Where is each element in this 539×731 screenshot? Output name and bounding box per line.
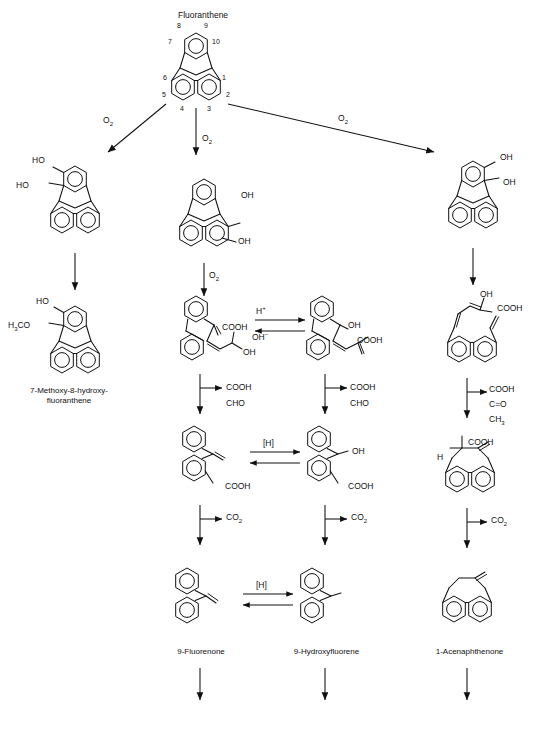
middle-diol-oh-1: OH (241, 190, 254, 201)
middle-right-oh: OH (348, 320, 361, 331)
ring-number-8: 8 (177, 22, 181, 29)
left-diol-structure (49, 166, 99, 233)
middle-right-side-cooh: COOH (350, 382, 376, 393)
middle-diol-oh-2: OH (238, 236, 251, 247)
parent-compound-title: Fluoranthene (178, 10, 228, 20)
equilibrium-proton-label: H+ (256, 305, 266, 316)
left-product-name-line2: fluoranthene (47, 396, 91, 405)
oxygen-label-right: O2 (338, 113, 348, 126)
middle-right-acid-oh: OH (352, 446, 365, 457)
ring-number-1: 1 (222, 74, 226, 81)
ring-number-5: 5 (162, 91, 166, 98)
co2-label-right: CO2 (491, 515, 507, 528)
right-acid-h: H (437, 452, 443, 463)
acenaphthenone-name: 1-Acenaphthenone (417, 647, 522, 657)
middle-ketoacid-cooh: COOH (222, 322, 248, 333)
ring-number-2: 2 (226, 91, 230, 98)
middle-right-cooh: COOH (357, 335, 383, 346)
ring-number-6: 6 (163, 74, 167, 81)
fluorenone-structure (176, 568, 218, 623)
hydride-label-2: [H] (256, 580, 267, 591)
left-product-methoxy: H3CO (8, 320, 30, 333)
right-diol-oh-1: OH (500, 152, 513, 163)
left-product-name: 7-Methoxy-8-hydroxy- fluoranthene (4, 386, 134, 407)
middle-right-hydroxyfluorene-acid-structure (308, 426, 348, 483)
right-side-carbonyl: C=O (489, 399, 507, 410)
right-acid-cooh: COOH (468, 437, 494, 448)
middle-side-product-cho: CHO (226, 398, 245, 409)
right-arrow-acid-down (467, 508, 487, 548)
left-diol-ho-1: HO (32, 155, 45, 166)
middle-fluorenone-acid-structure (183, 426, 225, 483)
middle-right-acid-cooh: COOH (348, 481, 374, 492)
ring-number-7: 7 (168, 38, 172, 45)
right-enol-oh: OH (480, 289, 493, 300)
right-side-methyl: CH3 (489, 414, 505, 427)
middle-right-arrow-down (325, 374, 347, 414)
middle-diol-structure (180, 179, 240, 246)
o2-text-middle-2: O2 (209, 270, 219, 280)
o2-text-right: O2 (338, 113, 348, 123)
middle-side-product-cooh: COOH (226, 382, 252, 393)
right-arrow-enol-down (467, 378, 487, 418)
branch-arrow-right (228, 104, 434, 152)
figure-caption (6, 718, 536, 729)
fluorenone-name: 9-Fluorenone (155, 647, 247, 657)
oxygen-label-middle-2: O2 (209, 270, 219, 283)
ring-number-10: 10 (212, 38, 220, 45)
middle-right-arrow-acid-down (325, 505, 347, 545)
equilibrium-arrows-1 (255, 320, 305, 331)
o2-text-left: O2 (103, 115, 113, 125)
middle-arrow-acid-down (200, 505, 222, 545)
equilibrium-hydroxide-label: OH− (252, 331, 268, 342)
middle-arrow-keto-down (200, 374, 222, 414)
hydroxyfluorene-structure (301, 568, 341, 623)
co2-label-middle-right: CO2 (351, 512, 367, 525)
pathway-canvas (0, 0, 539, 731)
middle-right-side-cho: CHO (350, 398, 369, 409)
oxygen-label-middle: O2 (202, 133, 212, 146)
equilibrium-arrows-2 (250, 452, 300, 463)
right-diol-oh-2: OH (503, 177, 516, 188)
oxygen-label-left: O2 (103, 115, 113, 128)
middle-acid-cooh: COOH (225, 481, 251, 492)
right-side-cooh: COOH (489, 384, 515, 395)
left-product-name-line1: 7-Methoxy-8-hydroxy- (30, 386, 108, 395)
right-enol-cooh: COOH (497, 303, 523, 314)
hydroxyfluorene-name: 9-Hydroxyfluorene (274, 647, 379, 657)
left-diol-ho-2: HO (16, 180, 29, 191)
ring-number-9: 9 (204, 22, 208, 29)
middle-ketoacid-oh: OH (243, 347, 256, 358)
ring-number-3: 3 (207, 105, 211, 112)
ring-number-4: 4 (180, 105, 184, 112)
right-enol-structure (448, 298, 499, 362)
hydride-label-1: [H] (263, 438, 274, 449)
right-diol-structure (449, 161, 499, 228)
co2-label-middle: CO2 (226, 512, 242, 525)
o2-text-middle: O2 (202, 133, 212, 143)
left-product-ho: HO (36, 296, 49, 307)
acenaphthenone-structure (443, 572, 492, 622)
equilibrium-arrows-3 (243, 594, 293, 605)
left-methoxy-structure (49, 306, 99, 373)
branch-arrow-left (108, 104, 166, 152)
